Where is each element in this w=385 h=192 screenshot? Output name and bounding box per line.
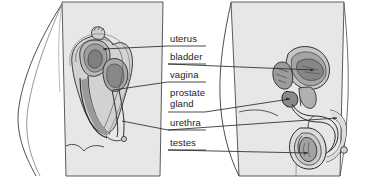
reproductive-system-diagram: uterus bladder vagina prostate gland ure… (0, 0, 385, 192)
female-spine-hint (59, 4, 62, 92)
female-buttock-contour (27, 4, 62, 176)
female-bladder-interior (107, 64, 124, 88)
label-uterus: uterus (170, 34, 197, 45)
fallopian-tube-ovary (91, 27, 104, 40)
female-external-opening (121, 136, 126, 141)
uterus-cavity (88, 50, 102, 68)
female-back-outline (18, 4, 62, 176)
label-urethra: urethra (170, 118, 201, 129)
label-vagina: vagina (170, 70, 199, 81)
label-bladder: bladder (170, 52, 202, 63)
label-prostate-gland: prostate gland (170, 88, 205, 109)
glans-penis (341, 147, 348, 154)
label-testes: testes (170, 138, 196, 149)
